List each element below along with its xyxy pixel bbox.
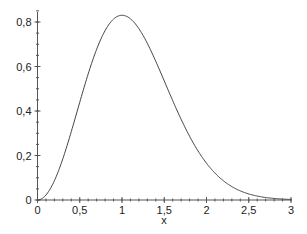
- y-axis: 00,20,40,60,8: [16, 11, 40, 206]
- x-axis-label: x: [161, 214, 167, 226]
- y-tick-label: 0,8: [16, 16, 31, 28]
- x-tick-label: 2: [203, 204, 209, 216]
- x-tick-label: 2,5: [241, 204, 256, 216]
- y-tick-label: 0,4: [16, 105, 31, 117]
- plot-area: [38, 15, 292, 200]
- y-tick-label: 0,2: [16, 150, 31, 162]
- x-tick-label: 3: [288, 204, 294, 216]
- x-tick-label: 1: [119, 204, 125, 216]
- y-tick-label: 0: [25, 194, 31, 206]
- x-tick-label: 0: [34, 204, 40, 216]
- x-tick-label: 0,5: [72, 204, 87, 216]
- curve-f(x): [38, 15, 292, 200]
- chart: 00,20,40,60,8 00,511,522,53 x: [0, 0, 307, 234]
- y-tick-label: 0,6: [16, 61, 31, 73]
